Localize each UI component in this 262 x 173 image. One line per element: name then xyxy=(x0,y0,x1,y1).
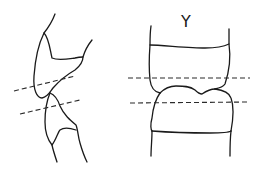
diagram-svg: Y xyxy=(0,0,262,173)
right-figure-mark: Y xyxy=(180,12,191,31)
diagram-canvas: Y xyxy=(0,0,262,173)
